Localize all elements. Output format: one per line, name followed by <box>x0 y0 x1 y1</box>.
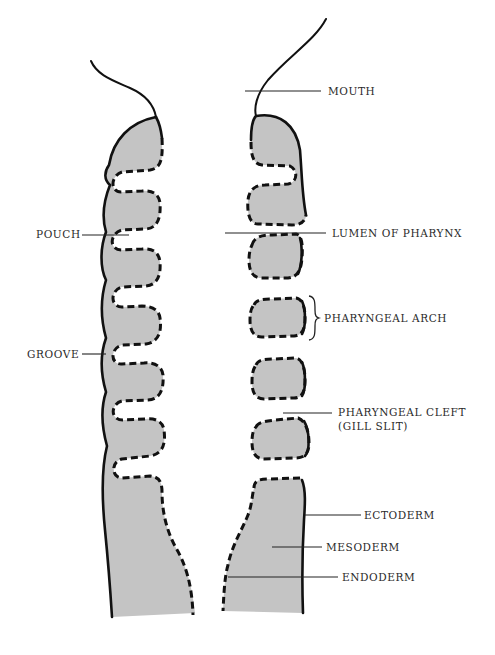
pharyngeal-arch-brace <box>309 296 319 340</box>
label-lumen-of-pharynx: LUMEN OF PHARYNX <box>332 227 462 239</box>
right-arch-5 <box>252 418 309 459</box>
label-endoderm: ENDODERM <box>342 571 415 583</box>
right-mouth-ectoderm-line <box>255 19 326 116</box>
label-mesoderm: MESODERM <box>326 541 400 553</box>
left-pharyngeal-wall <box>91 61 195 617</box>
label-pouch: POUCH <box>36 228 81 240</box>
label-gill-slit: (GILL SLIT) <box>338 420 408 432</box>
right-pharyngeal-wall <box>223 19 326 613</box>
label-pharyngeal-cleft: PHARYNGEAL CLEFT <box>338 406 466 418</box>
label-mouth: MOUTH <box>328 85 375 97</box>
pharynx-diagram <box>0 0 495 655</box>
label-ectoderm: ECTODERM <box>364 509 435 521</box>
right-arch-1-fill <box>248 115 306 225</box>
label-groove: GROOVE <box>27 348 79 360</box>
right-trunk <box>223 478 305 613</box>
right-arch-4 <box>252 358 305 399</box>
right-arch-2 <box>249 234 302 278</box>
label-pharyngeal-arch: PHARYNGEAL ARCH <box>324 312 447 324</box>
left-mouth-ectoderm-line <box>91 61 156 117</box>
right-arch-3 <box>250 298 305 337</box>
